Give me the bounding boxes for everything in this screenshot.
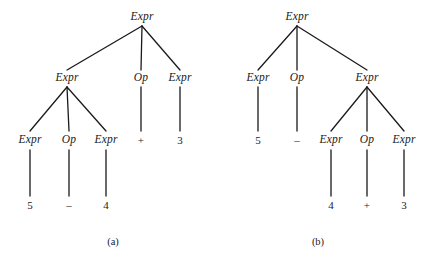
tree-node-nonterminal-a-l3-3: Expr — [94, 134, 117, 146]
tree-edge — [258, 26, 297, 70]
tree-node-nonterminal-a-l3-2: Op — [62, 134, 76, 146]
tree-edge — [142, 26, 180, 70]
tree-node-nonterminal-b-l3-4: Op — [360, 134, 374, 146]
tree-node-terminal-a-l3-5: 3 — [177, 135, 183, 146]
tree-node-nonterminal-b-l2-2: Op — [290, 72, 304, 84]
tree-node-terminal-a-l4-2: – — [66, 200, 72, 211]
parse-tree-figure: ExprExprOpExprExprOpExpr+35–4(a)ExprExpr… — [0, 0, 441, 263]
figure-caption-tree-b: (b) — [312, 237, 324, 248]
tree-node-nonterminal-a-l2-1: Expr — [55, 72, 78, 84]
tree-edge — [331, 87, 367, 131]
tree-node-nonterminal-a-l3-1: Expr — [18, 134, 41, 146]
tree-node-terminal-a-l4-1: 5 — [27, 200, 33, 211]
tree-node-nonterminal-b-l3-5: Expr — [392, 134, 415, 146]
tree-edge — [67, 26, 142, 70]
tree-edge-layer — [0, 0, 441, 263]
tree-edge — [67, 87, 106, 131]
tree-node-nonterminal-a-root: Expr — [130, 11, 153, 23]
tree-node-nonterminal-b-l2-3: Expr — [355, 72, 378, 84]
tree-node-nonterminal-b-l2-1: Expr — [246, 72, 269, 84]
tree-node-terminal-a-l3-4: + — [138, 135, 144, 146]
tree-node-nonterminal-b-l3-3: Expr — [319, 134, 342, 146]
tree-edge — [297, 26, 367, 70]
tree-edge — [30, 87, 67, 131]
tree-node-terminal-b-l4-2: + — [364, 200, 370, 211]
tree-edge — [367, 87, 404, 131]
tree-node-nonterminal-a-l2-3: Expr — [168, 72, 191, 84]
tree-node-nonterminal-b-root: Expr — [285, 11, 308, 23]
tree-node-terminal-b-l3-1: 5 — [255, 135, 261, 146]
tree-node-terminal-b-l4-3: 3 — [401, 200, 407, 211]
tree-edge — [67, 87, 69, 131]
tree-edge — [141, 26, 142, 70]
tree-node-terminal-a-l4-3: 4 — [103, 200, 109, 211]
tree-node-terminal-b-l3-2: – — [294, 135, 300, 146]
figure-caption-tree-a: (a) — [107, 237, 119, 248]
tree-node-terminal-b-l4-1: 4 — [328, 200, 334, 211]
tree-node-nonterminal-a-l2-2: Op — [134, 72, 148, 84]
